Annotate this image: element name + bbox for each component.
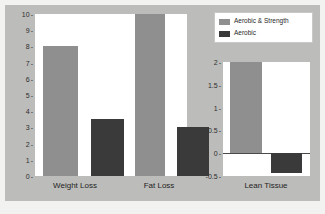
left-axis-tick: 2- — [0, 140, 33, 147]
tick-dash-icon: - — [31, 124, 33, 131]
left-axis-tick-label: 10 — [22, 11, 30, 18]
legend-label: Aerobic & Strength — [234, 18, 289, 25]
chart-legend: Aerobic & Strength Aerobic — [214, 12, 313, 43]
right-panel-plot-area — [223, 62, 310, 176]
left-axis-tick: 7- — [0, 59, 33, 66]
tick-dash-icon: - — [31, 173, 33, 180]
right-axis-tick: 1- — [192, 104, 221, 111]
category-label-weight-loss: Weight Loss — [40, 181, 110, 190]
tick-dash-icon: - — [31, 27, 33, 34]
bar-weight-loss-aerobic — [91, 119, 124, 176]
tick-dash-icon: - — [31, 11, 33, 18]
legend-swatch-icon — [219, 19, 230, 25]
tick-dash-icon: - — [31, 156, 33, 163]
left-axis-tick-label: 3 — [26, 124, 30, 131]
left-axis-tick: 0- — [0, 173, 33, 180]
chart-figure: 10- 9- 8- 7- 6- 5- 4- 3- 2- 1- 0- — [0, 0, 325, 214]
legend-swatch-icon — [219, 31, 230, 37]
right-axis-tick: 0.5- — [192, 127, 221, 134]
bar-weight-loss-aerobic-strength — [43, 46, 78, 176]
left-axis-tick-label: 0 — [26, 173, 30, 180]
right-axis-tick: 2- — [192, 59, 221, 66]
tick-dash-icon: - — [31, 108, 33, 115]
right-axis-tick-label: -0.5 — [206, 173, 218, 180]
category-label-fat-loss: Fat Loss — [128, 181, 190, 190]
right-axis-tick-label: 1.5 — [208, 81, 218, 88]
right-axis-tick-label: 1 — [214, 104, 218, 111]
tick-dash-icon: - — [31, 59, 33, 66]
right-axis-tick: -0.5- — [192, 173, 221, 180]
left-panel-plot-area — [35, 14, 187, 176]
right-axis-tick: 0- — [192, 150, 221, 157]
tick-dash-icon: - — [31, 92, 33, 99]
left-axis-tick: 10- — [0, 11, 33, 18]
left-axis-tick-label: 9 — [26, 27, 30, 34]
bar-lean-tissue-aerobic — [271, 153, 302, 172]
tick-dash-icon: - — [219, 59, 221, 66]
right-axis-tick-label: 2 — [214, 59, 218, 66]
left-axis-tick-label: 2 — [26, 140, 30, 147]
tick-dash-icon: - — [219, 81, 221, 88]
right-axis-ticks: 2- 1.5- 1- 0.5- 0- -0.5- — [192, 62, 221, 176]
tick-dash-icon: - — [219, 104, 221, 111]
left-axis-tick-label: 4 — [26, 108, 30, 115]
left-axis-tick-label: 1 — [26, 156, 30, 163]
left-axis-tick: 8- — [0, 43, 33, 50]
left-axis-tick: 3- — [0, 124, 33, 131]
category-label-lean-tissue: Lean Tissue — [228, 181, 304, 190]
legend-item-aerobic-strength: Aerobic & Strength — [219, 16, 308, 27]
left-axis-tick: 1- — [0, 156, 33, 163]
tick-dash-icon: - — [219, 127, 221, 134]
tick-dash-icon: - — [219, 173, 221, 180]
left-axis-tick: 5- — [0, 92, 33, 99]
left-axis-tick: 4- — [0, 108, 33, 115]
left-axis-tick-label: 7 — [26, 59, 30, 66]
legend-item-aerobic: Aerobic — [219, 28, 308, 39]
bar-lean-tissue-aerobic-strength — [230, 62, 262, 153]
left-axis-tick-label: 8 — [26, 43, 30, 50]
left-axis-tick-label: 5 — [26, 92, 30, 99]
right-axis-tick-label: 0 — [214, 150, 218, 157]
bar-fat-loss-aerobic-strength — [135, 14, 165, 176]
right-axis-tick-label: 0.5 — [208, 127, 218, 134]
right-axis-tick: 1.5- — [192, 81, 221, 88]
legend-label: Aerobic — [234, 30, 256, 37]
left-axis-tick: 9- — [0, 27, 33, 34]
tick-dash-icon: - — [31, 140, 33, 147]
left-axis-tick: 6- — [0, 75, 33, 82]
tick-dash-icon: - — [219, 150, 221, 157]
left-axis-ticks: 10- 9- 8- 7- 6- 5- 4- 3- 2- 1- 0- — [0, 14, 33, 176]
left-axis-tick-label: 6 — [26, 75, 30, 82]
tick-dash-icon: - — [31, 43, 33, 50]
tick-dash-icon: - — [31, 75, 33, 82]
